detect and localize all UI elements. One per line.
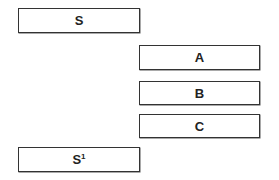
box-s-prime: S1 — [18, 147, 140, 172]
box-c: C — [139, 114, 260, 138]
box-s-prime-base: S — [72, 152, 81, 167]
box-a-label: A — [195, 50, 204, 65]
box-a: A — [139, 45, 260, 70]
box-s: S — [18, 8, 140, 33]
box-c-label: C — [195, 119, 204, 134]
box-b-label: B — [195, 86, 204, 101]
box-s-prime-label: S1 — [72, 152, 85, 167]
box-s-prime-superscript: 1 — [81, 152, 85, 161]
box-b: B — [139, 81, 260, 105]
box-s-label: S — [75, 13, 84, 28]
